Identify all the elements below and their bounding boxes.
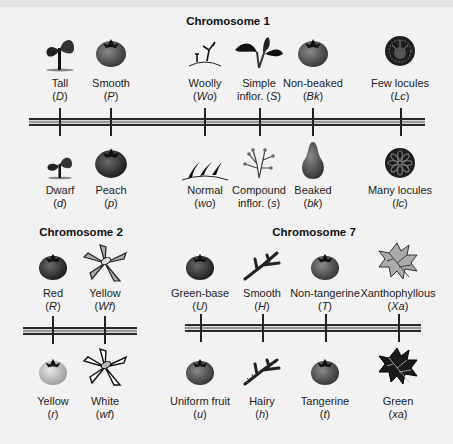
smooth-fruit-icon [94,36,128,68]
locus-tick-s [259,108,261,136]
trait-label-smooth-stem: Smooth(H) [243,287,281,313]
trait-label-peach: Peach(p) [95,184,126,210]
trait-label-many-locules: Many locules(lc) [368,184,432,210]
yellow-fruit-icon [37,356,69,386]
xanthophyllous-leaf-icon [377,241,419,283]
trait-label-compound-inflor: Compoundinflor. (s) [232,184,286,210]
locus-tick-bk [312,108,314,136]
locus-tick-t [325,314,327,342]
dwarf-plant-icon [43,152,77,180]
locus-tick-lc [400,108,402,136]
tall-plant-icon [40,34,80,72]
trait-label-tangerine: Tangerine(t) [301,395,349,421]
trait-label-green: Green(xa) [383,395,414,421]
trait-label-hairy: Hairy(h) [249,395,275,421]
trait-label-tall: Tall(D) [52,77,69,103]
trait-label-non-beaked: Non-beaked(Bk) [283,77,343,103]
trait-label-simple-inflor: Simpleinflor. (S) [237,77,281,103]
non-beaked-fruit-icon [296,36,330,68]
top-strip [0,0,453,7]
locus-tick-d [59,108,61,136]
chromosome-7-bar [185,324,421,332]
smooth-stem-icon [243,251,281,281]
chromosome-2-title: Chromosome 2 [39,226,123,238]
trait-label-xanthophyllous: Xanthophyllous(Xa) [360,287,435,313]
few-locules-icon [384,35,416,67]
locus-tick-p [110,108,112,136]
locus-tick-h [262,314,264,342]
white-flower-icon [82,347,128,387]
tangerine-fruit-icon [309,356,341,386]
trait-label-dwarf: Dwarf(d) [46,184,75,210]
trait-label-uniform-fruit: Uniform fruit(u) [170,395,230,421]
locus-tick-wf [104,316,106,344]
trait-label-normal: Normal(wo) [187,184,222,210]
trait-label-yellow-fruit: Yellow(r) [37,395,68,421]
trait-label-beaked: Beaked(bk) [294,184,331,210]
uniform-fruit-icon [184,356,216,386]
locus-tick-wo [204,108,206,136]
non-tangerine-fruit-icon [309,251,341,281]
hairy-stem-icon [243,356,281,386]
yellow-flower-icon [82,243,128,283]
trait-label-smooth: Smooth(P) [92,77,130,103]
trait-label-few-locules: Few locules(Lc) [371,77,429,103]
trait-label-woolly: Woolly(Wo) [189,77,222,103]
beaked-fruit-icon [299,141,327,181]
simple-inflorescence-icon [233,34,285,70]
woolly-hair-icon [187,40,223,68]
green-base-fruit-icon [184,251,216,281]
chromosome-1-title: Chromosome 1 [186,15,270,27]
trait-label-green-base: Green-base(U) [171,287,229,313]
locus-tick-xa [398,314,400,342]
red-fruit-icon [37,251,69,281]
compound-inflorescence-icon [239,146,279,180]
chromosome-7-title: Chromosome 7 [272,226,356,238]
chromosome-2-bar [23,327,137,335]
chromosome-1-bar [29,118,425,126]
locus-tick-r [52,316,54,344]
trait-label-red: Red(R) [43,287,63,313]
trait-label-white: White(wf) [91,395,119,421]
peach-fruit-icon [93,144,129,180]
green-leaf-icon [377,346,419,388]
normal-hair-icon [180,160,230,182]
trait-label-yellow-flower: Yellow(Wf) [89,287,120,313]
trait-label-non-tangerine: Non-tangerine(T) [290,287,360,313]
many-locules-icon [384,147,416,179]
locus-tick-u [200,314,202,342]
